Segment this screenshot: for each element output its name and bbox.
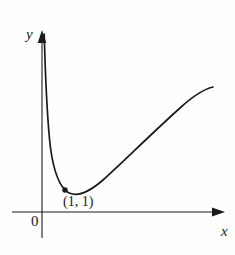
minimum-point-label: (1, 1) [63,195,93,209]
origin-label: 0 [31,214,39,229]
minimum-point-marker [62,187,67,192]
x-axis-arrowhead [212,208,225,217]
function-curve [44,34,213,194]
math-figure: y x 0 (1, 1) [0,0,235,255]
y-axis-label: y [26,27,33,42]
x-axis-label: x [221,224,228,239]
